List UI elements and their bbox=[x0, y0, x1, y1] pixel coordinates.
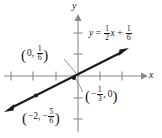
line-arrowhead-lower-left bbox=[4, 104, 15, 112]
third-point-fraction: 5 6 bbox=[48, 108, 54, 125]
y-intercept-denominator: 6 bbox=[37, 53, 43, 62]
intercept-numerator: 1 bbox=[126, 25, 132, 33]
slope-denominator: 2 bbox=[104, 33, 110, 42]
line-arrowhead-upper-right bbox=[119, 48, 130, 56]
equation-equals: = bbox=[93, 29, 103, 39]
equation-label: y = 1 2 x + 1 6 bbox=[89, 25, 132, 42]
y-intercept-numerator: 1 bbox=[37, 45, 43, 53]
equation-slope-fraction: 1 2 bbox=[104, 25, 110, 42]
x-intercept-minus-sign: − bbox=[90, 90, 96, 100]
y-axis-arrowhead bbox=[74, 14, 81, 21]
x-axis-label: x bbox=[149, 70, 153, 80]
third-point-minus-sign: − bbox=[42, 112, 47, 122]
x-intercept-fraction: 1 3 bbox=[97, 86, 103, 103]
equation-plus: + bbox=[115, 29, 125, 39]
intercept-denominator: 6 bbox=[126, 33, 132, 42]
third-point-label: ( −2 , − 5 6 ) bbox=[22, 108, 60, 125]
leader-line-y-intercept bbox=[64, 59, 76, 73]
x-axis-arrowhead bbox=[141, 72, 148, 79]
y-intercept-point-label: ( 0 , 1 6 ) bbox=[21, 45, 48, 62]
third-point-denominator: 6 bbox=[48, 116, 54, 125]
x-intercept-point-label: ( − 1 3 , 0 ) bbox=[85, 86, 117, 103]
x-intercept-numerator: 1 bbox=[97, 86, 103, 94]
leader-line-x-intercept bbox=[76, 79, 83, 92]
y-intercept-fraction: 1 6 bbox=[37, 45, 43, 62]
x-intercept-denominator: 3 bbox=[97, 94, 103, 103]
third-point-x-value: −2 bbox=[27, 112, 38, 122]
equation-intercept-fraction: 1 6 bbox=[126, 25, 132, 42]
y-axis-label: y bbox=[72, 1, 76, 11]
point-marker-origin-cluster bbox=[72, 76, 76, 80]
slope-numerator: 1 bbox=[104, 25, 110, 33]
graph-figure: x y y = 1 2 x + 1 6 ( 0 , 1 6 bbox=[0, 0, 162, 138]
y-intercept-comma: , bbox=[32, 49, 36, 59]
third-point-numerator: 5 bbox=[48, 108, 54, 116]
point-marker-neg2 bbox=[34, 93, 38, 97]
